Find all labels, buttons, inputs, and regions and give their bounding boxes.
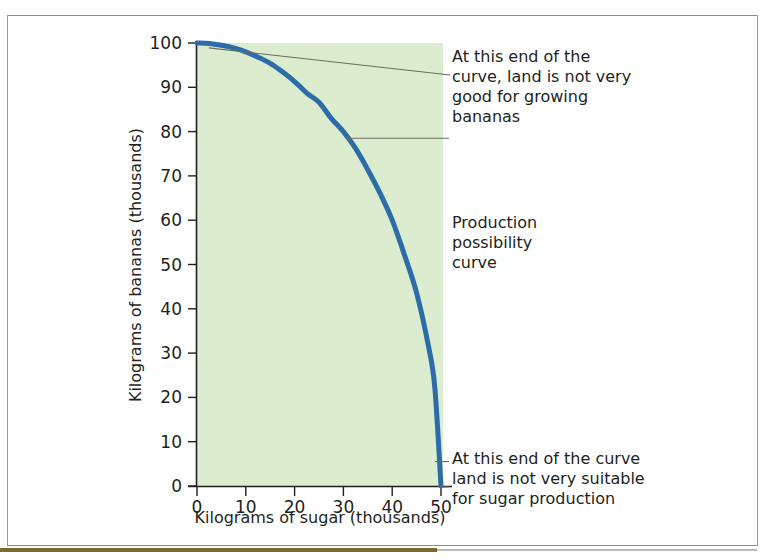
- y-axis-tick-label: 70: [160, 166, 182, 186]
- y-axis-ticks: [188, 43, 197, 486]
- annotation-top: At this end of thecurve, land is not ver…: [452, 47, 631, 126]
- y-axis-tick-label: 0: [171, 476, 182, 496]
- annotation-top-line: At this end of the: [452, 47, 590, 66]
- annotation-middle-line: Production: [452, 213, 537, 232]
- y-axis-tick-label: 40: [160, 299, 182, 319]
- annotation-middle-line: curve: [452, 253, 497, 272]
- y-axis-tick-label: 30: [160, 343, 182, 363]
- annotation-bottom-line: At this end of the curve: [452, 449, 640, 468]
- y-axis-tick-label: 50: [160, 255, 182, 275]
- y-axis-tick-label: 100: [150, 33, 182, 53]
- y-axis-title: Kilograms of bananas (thousands): [126, 128, 145, 402]
- y-axis-tick-label: 60: [160, 210, 182, 230]
- y-axis-tick-label: 90: [160, 77, 182, 97]
- annotation-middle: Productionpossibilitycurve: [452, 213, 537, 272]
- y-axis-tick-label: 10: [160, 432, 182, 452]
- annotation-bottom-line: for sugar production: [452, 489, 615, 508]
- annotation-bottom: At this end of the curveland is not very…: [452, 449, 645, 508]
- y-axis-tick-labels: 0102030405060708090100: [150, 33, 182, 496]
- annotation-top-line: good for growing: [452, 87, 588, 106]
- x-axis-ticks: [197, 486, 441, 496]
- y-axis-tick-label: 80: [160, 122, 182, 142]
- annotation-top-line: bananas: [452, 107, 520, 126]
- annotation-middle-line: possibility: [452, 233, 532, 252]
- y-axis-tick-label: 20: [160, 387, 182, 407]
- x-axis-title: Kilograms of sugar (thousands): [195, 508, 446, 527]
- annotation-top-line: curve, land is not very: [452, 67, 631, 86]
- production-possibility-curve-chart: 0102030405060708090100 01020304050 Kilog…: [0, 0, 770, 560]
- annotation-bottom-line: land is not very suitable: [452, 469, 645, 488]
- figure-container: 0102030405060708090100 01020304050 Kilog…: [0, 0, 770, 560]
